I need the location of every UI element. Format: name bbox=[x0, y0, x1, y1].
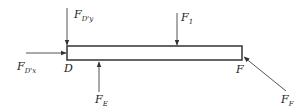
svg-text:FE: FE bbox=[94, 93, 108, 108]
arrow-diagonal-icon bbox=[244, 57, 286, 91]
svg-text:FF: FF bbox=[280, 93, 295, 108]
fe-base: F bbox=[94, 93, 103, 106]
svg-text:FD'x: FD'x bbox=[16, 60, 36, 75]
point-d-label: D bbox=[63, 62, 73, 75]
fdx-base: F bbox=[16, 60, 25, 73]
force-fdy: FD'y bbox=[67, 8, 94, 45]
force-fdx: FD'x bbox=[16, 53, 66, 75]
ff-base: F bbox=[280, 93, 289, 106]
ff-sub: F bbox=[288, 100, 295, 108]
f1-sub: 1 bbox=[189, 18, 193, 26]
f1-base: F bbox=[180, 11, 189, 24]
fdx-sub: D'x bbox=[24, 67, 37, 75]
free-body-diagram: FD'y FD'x D F1 FE F FF bbox=[0, 0, 305, 111]
fdy-sub: D'y bbox=[81, 15, 95, 23]
beam bbox=[67, 46, 242, 60]
fdy-base: F bbox=[73, 8, 82, 21]
point-f-label: F bbox=[235, 63, 244, 76]
svg-text:FD'y: FD'y bbox=[73, 8, 94, 23]
svg-text:F1: F1 bbox=[180, 11, 193, 26]
fe-sub: E bbox=[102, 100, 108, 108]
force-ff: FF bbox=[244, 57, 295, 108]
force-f1: F1 bbox=[177, 11, 193, 45]
force-fe: FE bbox=[94, 62, 108, 108]
